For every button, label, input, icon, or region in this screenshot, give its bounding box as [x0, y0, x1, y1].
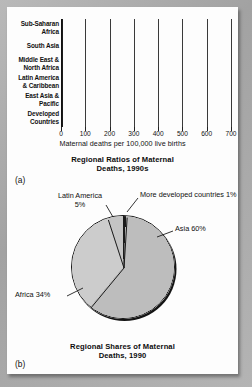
- x-tick-label-100: 100: [73, 130, 97, 137]
- figure-b-caption-line2: Deaths, 1990: [7, 351, 238, 361]
- bar-category-label-3: Latin America& Caribbean: [9, 74, 59, 89]
- figure-a-panel-id: (a): [15, 175, 25, 185]
- table-row: [61, 37, 180, 55]
- x-tick-label-600: 600: [195, 130, 219, 137]
- y-axis-line: [61, 19, 62, 127]
- bar-category-label-1: South Asia: [9, 42, 59, 49]
- figure-a-caption-line2: Deaths, 1990s: [7, 164, 238, 174]
- table-row: [61, 19, 210, 37]
- pie-label-latin-america-line2: 5%: [49, 201, 111, 210]
- figure-card: Sub-SaharanAfricaSouth AsiaMiddle East &…: [7, 7, 238, 374]
- bar-category-label-0: Sub-SaharanAfrica: [9, 20, 59, 35]
- pie-label-developed: More developed countries 1%: [140, 191, 237, 200]
- table-row: [61, 55, 111, 73]
- pie-label-africa: Africa 34%: [15, 291, 50, 300]
- bar-category-label-4: East Asia &Pacific: [9, 92, 59, 107]
- figure-a-bar-chart: Sub-SaharanAfricaSouth AsiaMiddle East &…: [7, 9, 238, 149]
- x-tick-label-700: 700: [219, 130, 243, 137]
- x-axis-title: Maternal deaths per 100,000 live births: [7, 139, 238, 148]
- scanned-page-background: Sub-SaharanAfricaSouth AsiaMiddle East &…: [0, 0, 252, 387]
- gridline-700: [231, 19, 232, 127]
- x-tick-label-400: 400: [146, 130, 170, 137]
- x-tick-label-200: 200: [98, 130, 122, 137]
- table-row: [61, 73, 107, 91]
- pie-label-asia: Asia 60%: [175, 225, 206, 234]
- bar-category-label-5: DevelopedCountries: [9, 110, 59, 125]
- table-row: [61, 91, 99, 109]
- figure-b-panel-id: (b): [15, 359, 25, 369]
- x-tick-label-500: 500: [170, 130, 194, 137]
- bar-category-label-2: Middle East &North Africa: [9, 56, 59, 71]
- x-tick-label-0: 0: [49, 130, 73, 137]
- x-tick-label-300: 300: [122, 130, 146, 137]
